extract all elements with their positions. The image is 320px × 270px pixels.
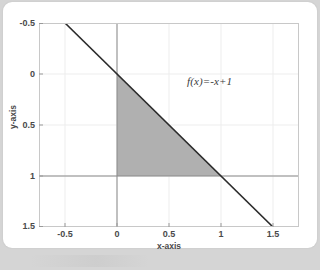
plot-area: f(x)=-x+1 xyxy=(39,23,299,227)
chart-card: f(x)=-x+1 -0.5 0 0.5 1 1.5 -0.5 0 0.5 1 … xyxy=(3,2,317,248)
page-artifact xyxy=(30,255,150,267)
y-tick-label: -0.5 xyxy=(19,19,35,28)
y-tick-label: 0 xyxy=(30,70,35,79)
y-tick-label: 0.5 xyxy=(22,121,35,130)
y-axis-label: y-axis xyxy=(8,95,18,139)
y-tick-label: 1 xyxy=(30,172,35,181)
x-tick-label: 0.5 xyxy=(163,230,176,239)
function-annotation: f(x)=-x+1 xyxy=(187,75,232,87)
x-axis-label: x-axis xyxy=(39,241,299,251)
x-tick-label: 1 xyxy=(218,230,223,239)
plot-svg xyxy=(39,23,299,227)
x-tick-label: -0.5 xyxy=(57,230,73,239)
x-tick-label: 1.5 xyxy=(267,230,280,239)
x-tick-label: 0 xyxy=(114,230,119,239)
y-tick-label: 1.5 xyxy=(22,222,35,231)
